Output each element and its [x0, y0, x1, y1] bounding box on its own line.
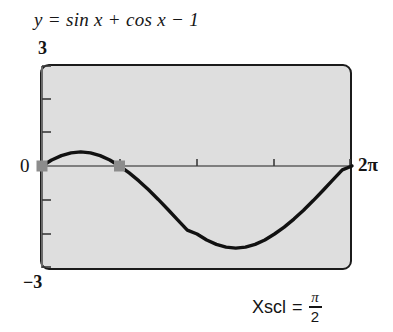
fraction-denominator: 2 — [309, 308, 321, 324]
xscl-annotation: Xscl = π 2 — [252, 291, 322, 325]
fraction-numerator: π — [309, 290, 321, 306]
y-min-label: −3 — [23, 272, 42, 293]
equation-text: y = sin x + cos x − 1 — [34, 9, 199, 30]
x-axis-ticks — [120, 159, 350, 166]
origin-label: 0 — [20, 155, 30, 177]
marked-point-origin — [37, 161, 48, 172]
xscl-name: Xscl — [252, 297, 286, 318]
equation-title: y = sin x + cos x − 1 — [34, 9, 199, 31]
graph-figure: y = sin x + cos x − 1 3 — [0, 0, 393, 332]
pi-over-two-fraction: π 2 — [309, 290, 322, 324]
x-max-label: 2π — [358, 154, 378, 176]
xscl-equals: = — [292, 297, 303, 318]
y-max-label: 3 — [38, 38, 47, 59]
marked-point-half-pi — [114, 161, 125, 172]
plot-canvas — [40, 64, 352, 270]
